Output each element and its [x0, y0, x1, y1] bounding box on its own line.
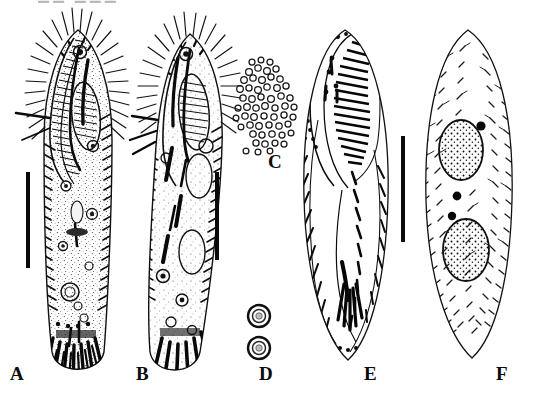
panel-label-a: A [10, 364, 24, 383]
panel-label-c: C [268, 152, 282, 171]
scale-bar-ef [401, 136, 405, 242]
panel-d-drawing [248, 305, 270, 359]
panel-label-b: B [136, 364, 149, 383]
panel-label-e: E [364, 364, 377, 383]
panel-b-drawing [130, 12, 241, 392]
panel-f-drawing [423, 30, 512, 358]
illustration-layer [0, 0, 535, 401]
panel-label-d: D [259, 364, 273, 383]
panel-e-drawing [300, 30, 388, 360]
panel-c-drawing [233, 57, 297, 155]
panel-label-f: F [496, 364, 508, 383]
panel-a-drawing [16, 8, 129, 394]
scale-bar-a [26, 172, 30, 268]
scale-bar-b [215, 172, 219, 260]
figure-plate: ▬▬ ▬▬▬ [0, 0, 535, 401]
cutoff-caption-remnant: ▬▬ ▬▬▬ [38, 0, 158, 3]
